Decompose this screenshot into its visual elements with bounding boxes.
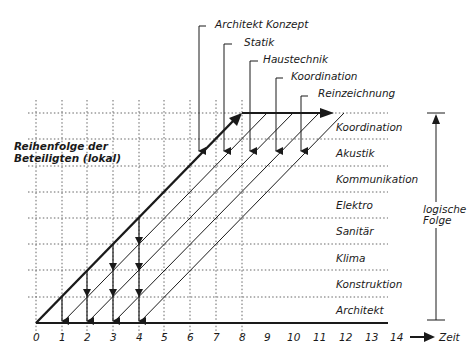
svg-text:7: 7 (213, 331, 220, 343)
time-axis-label: Zeit (438, 331, 461, 343)
callout-haustechnik: Haustechnik (263, 53, 329, 65)
svg-text:5: 5 (161, 331, 168, 343)
svg-text:1: 1 (59, 331, 66, 343)
left-title-line2: Beteiligten (lokal) (14, 152, 121, 164)
svg-text:2: 2 (84, 331, 91, 343)
svg-text:12: 12 (339, 331, 353, 343)
sequence-diagram: Architekt Konzept Statik Haustechnik Koo… (0, 0, 476, 357)
row-label-akustik: Akustik (335, 147, 375, 159)
row-label-architekt: Architekt (335, 304, 385, 316)
callout-statik: Statik (244, 36, 275, 48)
svg-text:11: 11 (313, 331, 326, 343)
left-title-line1: Reihenfolge der (14, 140, 109, 152)
svg-text:0: 0 (33, 331, 40, 343)
vertical-drop-arrows (62, 218, 139, 321)
row-label-elektro: Elektro (336, 199, 373, 211)
x-tick-labels: 0 1 2 3 4 5 6 7 8 9 10 11 12 13 14 (33, 331, 403, 343)
row-label-koordination: Koordination (336, 121, 402, 133)
svg-text:14: 14 (390, 331, 403, 343)
svg-text:6: 6 (187, 331, 194, 343)
arrowhead-icon (320, 108, 334, 118)
logical-order-label-line2: Folge (423, 214, 452, 226)
arrow-right-icon (424, 332, 435, 342)
callout-architekt-konzept: Architekt Konzept (214, 18, 309, 30)
row-label-sanitaer: Sanitär (336, 225, 374, 237)
arrow-up-icon (432, 114, 440, 124)
svg-text:8: 8 (239, 331, 246, 343)
row-label-kommunikation: Kommunikation (336, 173, 418, 185)
svg-text:4: 4 (136, 331, 143, 343)
row-label-konstruktion: Konstruktion (336, 278, 402, 290)
svg-text:9: 9 (264, 331, 271, 343)
svg-text:10: 10 (287, 331, 301, 343)
callout-koordination: Koordination (291, 70, 357, 82)
svg-text:3: 3 (110, 331, 117, 343)
row-label-klima: Klima (336, 252, 365, 264)
callout-reinzeichnung: Reinzeichnung (318, 87, 396, 99)
svg-text:13: 13 (365, 331, 378, 343)
